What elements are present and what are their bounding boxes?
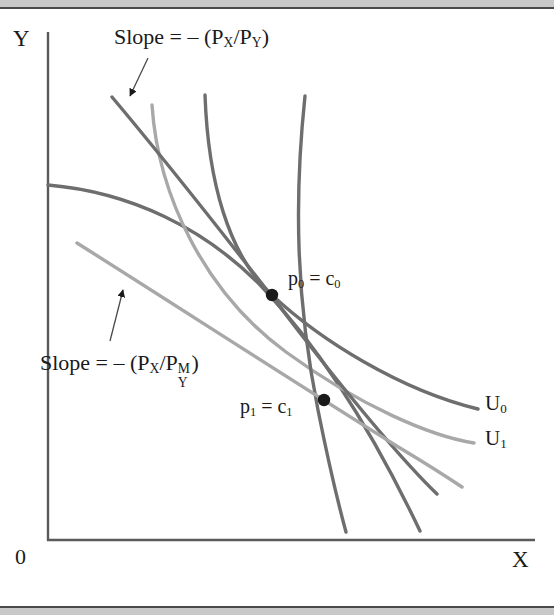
slope-domestic-suffix: ) <box>191 350 198 375</box>
curve-u1-base: U <box>485 426 500 450</box>
slope-domestic-den-sup: M <box>178 362 190 376</box>
point-label-p0: p0 = c0 <box>288 268 341 291</box>
point-p1-eq: = c <box>256 395 286 417</box>
point-marker-p0[interactable] <box>266 289 278 301</box>
curve-label-u0: U0 <box>485 393 507 415</box>
slope-domestic-mid: /P <box>159 350 177 375</box>
slope-world-num-sub: X <box>224 35 234 50</box>
slope-domestic-label: Slope = – (PX/PMY) <box>40 352 199 376</box>
curve-u0-sub: 0 <box>500 401 507 416</box>
point-marker-p1[interactable] <box>318 394 330 406</box>
slope-domestic-den-sub: Y <box>178 376 188 390</box>
point-p0-eq: = c <box>304 267 334 289</box>
slope-world-den-sub: Y <box>252 35 262 50</box>
offer-curve <box>298 96 346 532</box>
x-axis-label: X <box>512 548 529 571</box>
origin-label: 0 <box>15 546 26 568</box>
slope-world-mid: /P <box>233 24 251 49</box>
point-p1-base: p <box>240 395 250 417</box>
curve-label-u1: U1 <box>485 428 507 450</box>
slope-domestic-leader-arrow <box>110 290 123 341</box>
point-p0-eq-sub: 0 <box>334 277 340 291</box>
point-p0-base: p <box>288 267 298 289</box>
slope-world-suffix: ) <box>262 24 269 49</box>
point-p1-eq-sub: 1 <box>286 405 292 419</box>
slope-world-leader-arrow <box>130 58 148 96</box>
slope-domestic-num-sub: X <box>150 361 160 376</box>
slope-domestic-prefix: Slope = – (P <box>40 350 150 375</box>
point-label-p1: p1 = c1 <box>240 396 293 419</box>
curve-u0-base: U <box>485 391 500 415</box>
slope-world-label: Slope = – (PX/PY) <box>114 26 269 50</box>
curve-u1-sub: 1 <box>500 436 507 451</box>
economics-figure: Y X 0 Slope = – (PX/PY) Slope = – (PX/PM… <box>0 0 554 615</box>
y-axis-label: Y <box>13 27 30 50</box>
indifference-curve-u0 <box>205 95 478 409</box>
slope-world-prefix: Slope = – (P <box>114 24 224 49</box>
plot-canvas <box>0 0 554 615</box>
